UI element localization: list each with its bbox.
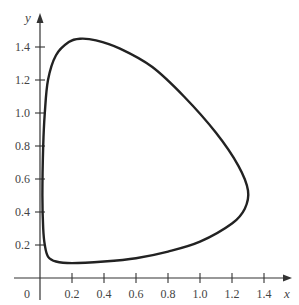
x-tick-label: 0.4 <box>97 287 112 301</box>
x-tick-label: 0.6 <box>129 287 144 301</box>
x-ticks: 0.20.40.60.81.01.21.4 <box>65 273 272 301</box>
x-axis-label: x <box>283 286 290 301</box>
y-tick-label: 0.2 <box>15 238 30 252</box>
orbit-curve <box>42 39 248 263</box>
x-tick-label: 1.0 <box>193 287 208 301</box>
x-tick-label: 0.8 <box>161 287 176 301</box>
x-tick-label: 1.4 <box>257 287 272 301</box>
y-axis-label: y <box>23 10 31 25</box>
y-tick-label: 1.0 <box>15 106 30 120</box>
phase-plot: 0.20.40.60.81.01.21.4 0.20.40.60.81.01.2… <box>0 0 299 305</box>
x-axis-arrow-icon <box>283 275 292 282</box>
x-tick-label: 1.2 <box>225 287 240 301</box>
y-tick-label: 1.2 <box>15 73 30 87</box>
x-tick-label: 0.2 <box>65 287 80 301</box>
y-tick-label: 0.8 <box>15 139 30 153</box>
y-tick-label: 0.4 <box>15 205 30 219</box>
y-tick-label: 1.4 <box>15 40 30 54</box>
y-tick-label: 0.6 <box>15 172 30 186</box>
origin-label: 0 <box>24 287 30 301</box>
y-axis-arrow-icon <box>37 13 44 23</box>
